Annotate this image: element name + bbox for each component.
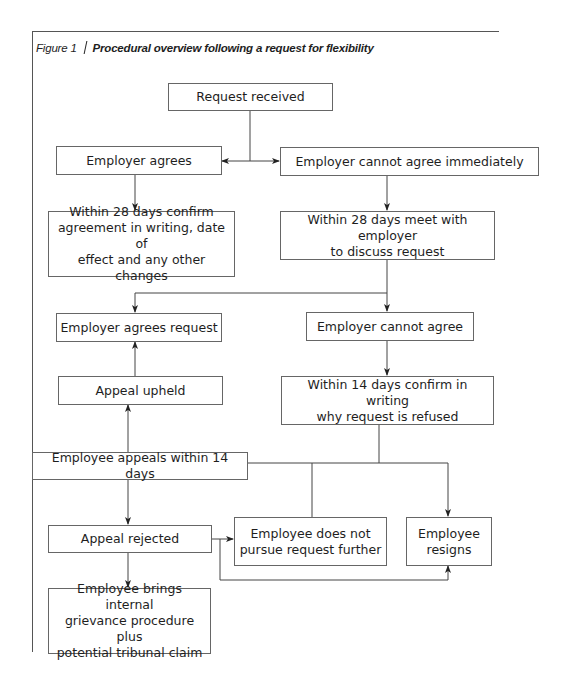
node-employee-does-not-pursue: Employee does not pursue request further: [234, 517, 387, 566]
node-employer-cannot-agree: Employer cannot agree: [306, 312, 474, 341]
node-employer-cannot-agree-immediately: Employer cannot agree immediately: [280, 147, 539, 176]
node-confirm-agreement-28-days: Within 28 days confirm agreement in writ…: [48, 211, 235, 277]
flowchart-figure: Figure 1Procedural overview following a …: [0, 0, 569, 686]
node-employer-agrees: Employer agrees: [56, 146, 222, 175]
node-confirm-refusal-14-days: Within 14 days confirm in writing why re…: [281, 376, 494, 425]
node-employer-agrees-request: Employer agrees request: [56, 313, 222, 342]
node-meet-within-28-days: Within 28 days meet with employer to dis…: [280, 211, 495, 260]
node-grievance-tribunal-claim: Employee brings internal grievance proce…: [48, 588, 211, 654]
node-request-received: Request received: [168, 83, 333, 111]
node-appeal-rejected: Appeal rejected: [48, 525, 212, 553]
node-employee-resigns: Employee resigns: [406, 517, 492, 566]
node-appeal-upheld: Appeal upheld: [58, 376, 223, 405]
node-employee-appeals-14-days: Employee appeals within 14 days: [32, 452, 248, 480]
